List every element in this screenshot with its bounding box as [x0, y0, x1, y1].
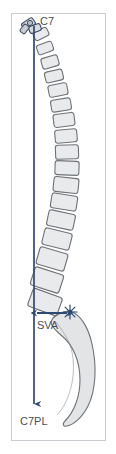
vertebra-body: [53, 112, 75, 127]
sacral-endplate-marker: [63, 305, 77, 319]
spine-illustration: C7 SVA C7PL: [0, 0, 116, 454]
vertebra-body: [44, 69, 64, 84]
label-sva: SVA: [37, 319, 59, 331]
label-c7pl: C7PL: [20, 415, 48, 427]
vertebra-body: [40, 54, 59, 69]
vertebra-body: [48, 82, 69, 97]
vertebra-body: [50, 193, 78, 212]
vertebra-body: [53, 176, 79, 194]
vertebra-body: [46, 209, 76, 230]
label-c7: C7: [40, 15, 54, 27]
vertebra-body: [41, 227, 72, 250]
vertebra-stack: [27, 27, 79, 317]
vertebra-body: [50, 98, 72, 113]
vertebra-body: [55, 161, 79, 176]
spine-figure: C7 SVA C7PL: [0, 0, 116, 454]
vertebra-body: [55, 145, 78, 160]
vertebra-body: [36, 41, 54, 56]
vertebra-body: [54, 129, 77, 144]
